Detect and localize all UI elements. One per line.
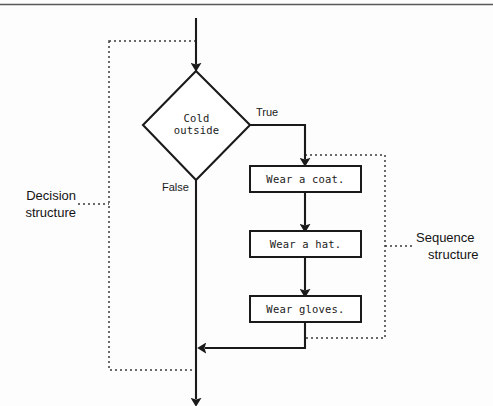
true-branch-arrow: [250, 125, 305, 159]
annotation-decision-line2: structure: [25, 205, 76, 220]
false-label: False: [162, 181, 189, 194]
annotation-sequence-line2: structure: [416, 247, 479, 264]
decision-text-line2: outside: [174, 124, 220, 136]
annotation-sequence-line1: Sequence: [416, 230, 475, 245]
process-box-1-label: Wear a coat.: [250, 173, 361, 185]
flowchart-figure: Coldoutside True False Wear a coat. Wear…: [0, 0, 493, 406]
decision-text: Coldoutside: [143, 112, 250, 137]
annotation-decision-structure: Decisionstructure: [0, 188, 76, 222]
merge-arrow: [205, 322, 305, 348]
true-label: True: [256, 106, 278, 119]
decision-text-line1: Cold: [183, 112, 209, 124]
process-box-2-label: Wear a hat.: [250, 238, 361, 250]
annotation-decision-line1: Decision: [26, 188, 76, 203]
process-box-3-label: Wear gloves.: [250, 303, 361, 315]
annotation-sequence-structure: Sequencestructure: [416, 230, 493, 264]
